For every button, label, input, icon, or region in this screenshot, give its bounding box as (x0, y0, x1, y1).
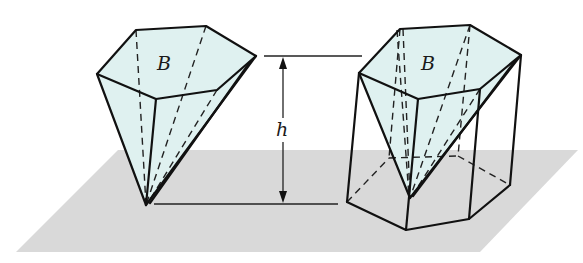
arrow-up-icon (279, 57, 287, 69)
base-label-right: B (420, 52, 435, 74)
ground-plane (16, 150, 578, 252)
pyramid-prism-diagram: B h B (0, 0, 583, 263)
height-label: h (276, 118, 288, 140)
base-label-left: B (156, 52, 171, 74)
